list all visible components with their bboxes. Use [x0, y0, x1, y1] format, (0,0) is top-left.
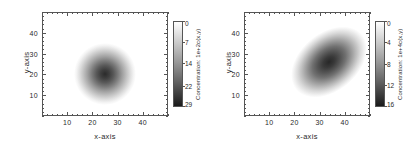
xtick-label-left-0: 10	[63, 119, 71, 126]
xtick-label-right-3: 40	[341, 119, 349, 126]
axis-minor-tick	[370, 12, 371, 14]
colorbar-label-right-2: 8	[387, 60, 391, 67]
concentration-blob-elliptical	[277, 13, 369, 112]
colorbar-label-left-2: 14	[185, 59, 192, 66]
colorbar-label-right-3: 12	[387, 81, 394, 88]
colorbar-label-right-0: 0	[387, 20, 391, 27]
colorbar-label-left-3: 22	[185, 83, 192, 90]
plot-panel-right: 10 20 30 40 x-axis 10 20 30 40 y-axis 0 …	[202, 0, 404, 165]
colorbar-label-right-4: 16	[387, 101, 394, 108]
colorbar-gradient-right	[375, 21, 385, 107]
xtick-label-right-1: 20	[290, 119, 298, 126]
figure-container: 10 20 30 40 x-axis 10 20 30 40 y-axis 0 …	[0, 0, 404, 165]
xaxis-title-right: x-axis	[244, 132, 370, 141]
xtick-label-right-0: 10	[265, 119, 273, 126]
colorbar-right: 0 4 8 12 16 Concentration: 1e+4c(x,y)	[375, 21, 385, 107]
axis-minor-tick	[168, 12, 169, 14]
colorbar-gradient-left	[173, 21, 183, 107]
axis-minor-tick	[370, 114, 371, 116]
colorbar-label-left-0: 0	[185, 20, 189, 27]
colorbar-label-left-1: 7	[185, 38, 189, 45]
axis-minor-tick	[368, 116, 370, 117]
axis-minor-tick	[168, 114, 169, 116]
colorbar-title-right: Concentration: 1e+4c(x,y)	[397, 21, 403, 107]
xtick-label-right-2: 30	[315, 119, 323, 126]
colorbar-title-left: Concentration: 1e+2c(x,y)	[195, 21, 201, 107]
colorbar-label-right-1: 4	[387, 39, 391, 46]
axes-right	[244, 12, 370, 116]
colorbar-left: 0 7 14 22 29 Concentration: 1e+2c(x,y)	[173, 21, 183, 107]
colorbar-label-left-4: 29	[185, 101, 192, 108]
axis-minor-tick	[244, 116, 246, 117]
xaxis-title-left: x-axis	[42, 132, 168, 141]
axis-minor-tick	[42, 116, 44, 117]
yaxis-title-right: y-axis	[224, 18, 233, 108]
heatmap-canvas-right	[245, 13, 369, 115]
xtick-label-left-1: 20	[88, 119, 96, 126]
concentration-blob-circular	[74, 43, 136, 105]
yaxis-title-left: y-axis	[22, 18, 31, 108]
plot-panel-left: 10 20 30 40 x-axis 10 20 30 40 y-axis 0 …	[0, 0, 202, 165]
xtick-label-left-3: 40	[139, 119, 147, 126]
xtick-label-left-2: 30	[113, 119, 121, 126]
axis-minor-tick	[166, 116, 168, 117]
axes-left	[42, 12, 168, 116]
heatmap-canvas-left	[43, 13, 167, 115]
